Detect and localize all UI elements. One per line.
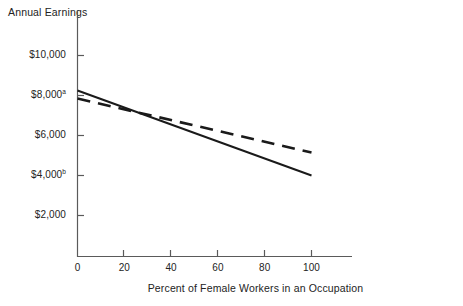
y-tick-label: $6,000: [0, 129, 72, 140]
x-tick-label: 40: [165, 262, 176, 273]
data-series-group: [78, 91, 312, 176]
y-tick-label-text: $2,000: [35, 209, 66, 220]
y-tick-label: $10,000: [0, 49, 72, 60]
x-tick-marks: [124, 250, 312, 257]
x-tick-label: 0: [75, 262, 81, 273]
y-tick-label: $2,000: [0, 209, 72, 220]
y-tick-label: $4,000b: [0, 169, 72, 180]
x-tick-label: 100: [303, 262, 320, 273]
dashed-line: [78, 99, 312, 153]
y-tick-label-text: $10,000: [29, 49, 66, 60]
y-tick-footnote-marker: a: [62, 87, 66, 94]
y-tick-label: $8,000a: [0, 89, 72, 100]
x-tick-label: 80: [259, 262, 270, 273]
plot-area: [0, 0, 463, 306]
y-tick-label-text: $8,000: [31, 89, 62, 100]
x-tick-label: 20: [119, 262, 130, 273]
y-tick-marks: [78, 56, 85, 216]
y-tick-label-text: $4,000: [31, 169, 62, 180]
y-tick-label-text: $6,000: [35, 129, 66, 140]
x-axis-title: Percent of Female Workers in an Occupati…: [0, 282, 463, 294]
solid-line: [78, 91, 312, 176]
chart-container: Annual Earnings $2,000$4,000b$6,000$8,00…: [0, 0, 463, 306]
x-tick-label: 60: [212, 262, 223, 273]
y-tick-footnote-marker: b: [62, 167, 66, 174]
